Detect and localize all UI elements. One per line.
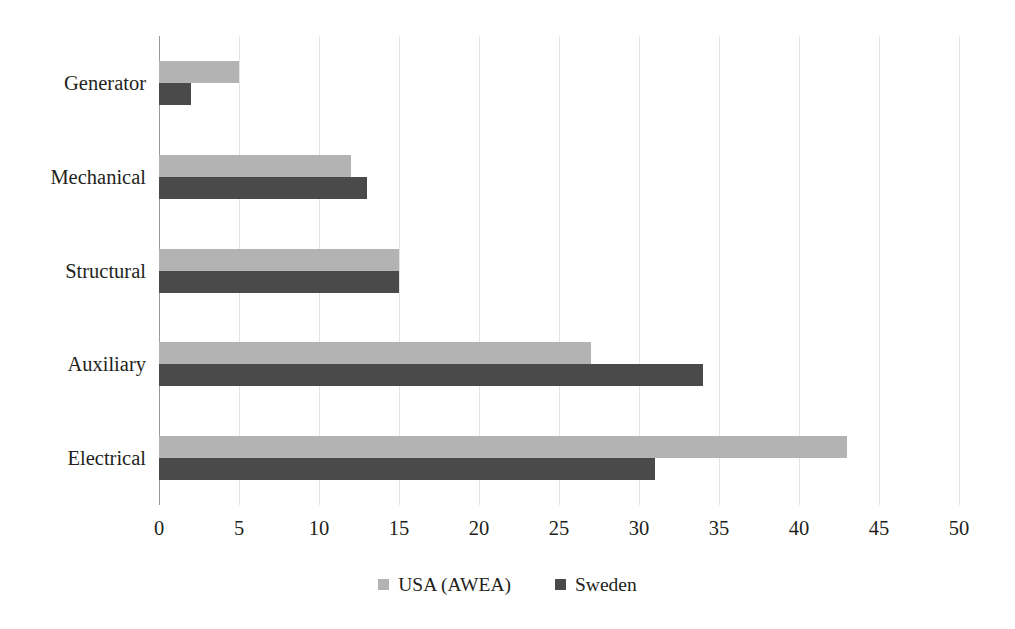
x-tick-label-20: 20: [449, 518, 509, 539]
y-axis-label-generator: Generator: [0, 73, 146, 94]
bar-group: [159, 249, 959, 293]
bar-group: [159, 436, 959, 480]
x-tick-label-35: 35: [689, 518, 749, 539]
chart-legend: USA (AWEA)Sweden: [0, 575, 1015, 595]
bar: [159, 61, 239, 83]
y-axis-label-structural: Structural: [0, 261, 146, 282]
x-tick-label-50: 50: [929, 518, 989, 539]
bar-group: [159, 342, 959, 386]
bar-chart: GeneratorMechanicalStructuralAuxiliaryEl…: [0, 0, 1015, 629]
y-axis-label-mechanical: Mechanical: [0, 167, 146, 188]
x-tick-label-40: 40: [769, 518, 829, 539]
bar-group: [159, 61, 959, 105]
legend-swatch-icon: [378, 579, 389, 590]
legend-item: USA (AWEA): [378, 575, 511, 595]
bar: [159, 436, 847, 458]
x-tick-label-10: 10: [289, 518, 349, 539]
legend-item: Sweden: [555, 575, 637, 595]
bar: [159, 458, 655, 480]
bar: [159, 342, 591, 364]
legend-label: USA (AWEA): [398, 575, 511, 595]
bar: [159, 177, 367, 199]
gridline-50: [959, 36, 960, 505]
bar: [159, 83, 191, 105]
legend-swatch-icon: [555, 579, 566, 590]
y-axis-label-electrical: Electrical: [0, 448, 146, 469]
legend-label: Sweden: [575, 575, 637, 595]
x-tick-label-45: 45: [849, 518, 909, 539]
plot-area: [159, 36, 959, 505]
x-tick-label-0: 0: [129, 518, 189, 539]
bar-group: [159, 155, 959, 199]
x-tick-label-5: 5: [209, 518, 269, 539]
x-tick-label-25: 25: [529, 518, 589, 539]
x-tick-label-15: 15: [369, 518, 429, 539]
bar: [159, 364, 703, 386]
bar: [159, 155, 351, 177]
bar: [159, 249, 399, 271]
x-tick-label-30: 30: [609, 518, 669, 539]
y-axis-label-auxiliary: Auxiliary: [0, 354, 146, 375]
bar: [159, 271, 399, 293]
